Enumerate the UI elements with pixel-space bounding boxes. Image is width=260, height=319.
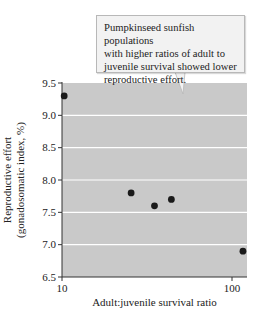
- x-tick-label: 100: [224, 282, 241, 294]
- scatter-chart: 6.57.07.58.08.59.09.510100 Pumpkinseed s…: [0, 0, 260, 319]
- y-tick-label: 9.0: [42, 109, 56, 121]
- x-tick-label: 10: [57, 282, 69, 294]
- annotation-callout: Pumpkinseed sunfish populations with hig…: [96, 15, 245, 73]
- callout-line: reproductive effort.: [104, 73, 238, 86]
- y-tick-label: 6.5: [42, 271, 56, 283]
- data-point: [128, 190, 135, 197]
- x-axis-label: Adult:juvenile survival ratio: [62, 296, 247, 308]
- callout-line: with higher ratios of adult to: [104, 47, 238, 60]
- data-point: [240, 248, 247, 255]
- y-tick-label: 9.5: [42, 77, 56, 89]
- data-point: [151, 202, 158, 209]
- callout-line: juvenile survival showed lower: [104, 60, 238, 73]
- y-axis-label-line2: (gonadosomatic index, %): [13, 122, 26, 238]
- y-tick-label: 7.5: [42, 206, 56, 218]
- data-point: [61, 93, 68, 100]
- callout-line: Pumpkinseed sunfish populations: [104, 21, 238, 47]
- y-tick-label: 8.5: [42, 141, 56, 153]
- y-axis-label-line1: Reproductive effort: [1, 122, 14, 238]
- data-point: [168, 196, 175, 203]
- y-tick-label: 8.0: [42, 174, 56, 186]
- y-tick-label: 7.0: [42, 238, 56, 250]
